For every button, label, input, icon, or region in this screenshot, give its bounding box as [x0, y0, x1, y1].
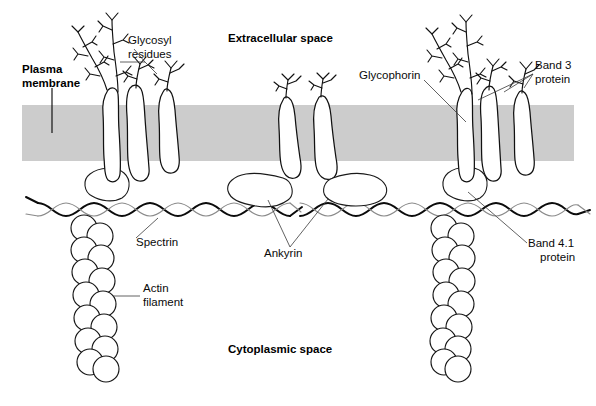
- band3-protein-right-b: [480, 86, 501, 181]
- label-glycophorin: Glycophorin: [359, 69, 420, 81]
- label-cytoplasmic-space: Cytoplasmic space: [228, 343, 332, 355]
- label-band41-protein-line2: protein: [540, 251, 575, 263]
- label-plasma-membrane-line2: membrane: [22, 77, 80, 89]
- band3-protein-left-a: [103, 88, 121, 182]
- ankyrin-right: [324, 174, 387, 206]
- membrane-diagram: Extracellular space Plasma membrane Glyc…: [0, 0, 596, 406]
- label-actin-filament-line1: Actin: [143, 282, 169, 294]
- label-plasma-membrane-line1: Plasma: [22, 63, 63, 75]
- label-ankyrin: Ankyrin: [264, 247, 302, 259]
- glycosyl-residues-center: [274, 73, 336, 98]
- label-band41-protein-line1: Band 4.1: [528, 237, 574, 249]
- label-band3-protein-line2: protein: [535, 73, 570, 85]
- label-glycosyl-residues-line1: Glycosyl: [128, 34, 171, 46]
- label-actin-filament-line2: filament: [143, 296, 184, 308]
- ankyrin-left: [228, 173, 292, 206]
- glycosyl-residues-right: [426, 15, 539, 94]
- band3-protein-left-b: [126, 85, 149, 181]
- label-spectrin: Spectrin: [136, 236, 178, 248]
- glycophorin-right: [514, 91, 535, 175]
- leader-spectrin: [136, 218, 158, 238]
- actin-filament-right: [430, 215, 475, 382]
- glycophorin-left: [159, 89, 180, 173]
- label-extracellular-space: Extracellular space: [228, 32, 333, 44]
- label-glycosyl-residues-line2: residues: [128, 48, 172, 60]
- leader-band41: [468, 192, 527, 243]
- band3-protein-right-a: [457, 88, 475, 181]
- leader-band3-b: [504, 74, 533, 92]
- diagram-canvas: Extracellular space Plasma membrane Glyc…: [0, 0, 596, 406]
- label-band3-protein-line1: Band 3: [535, 59, 571, 71]
- actin-filament-left: [71, 215, 119, 382]
